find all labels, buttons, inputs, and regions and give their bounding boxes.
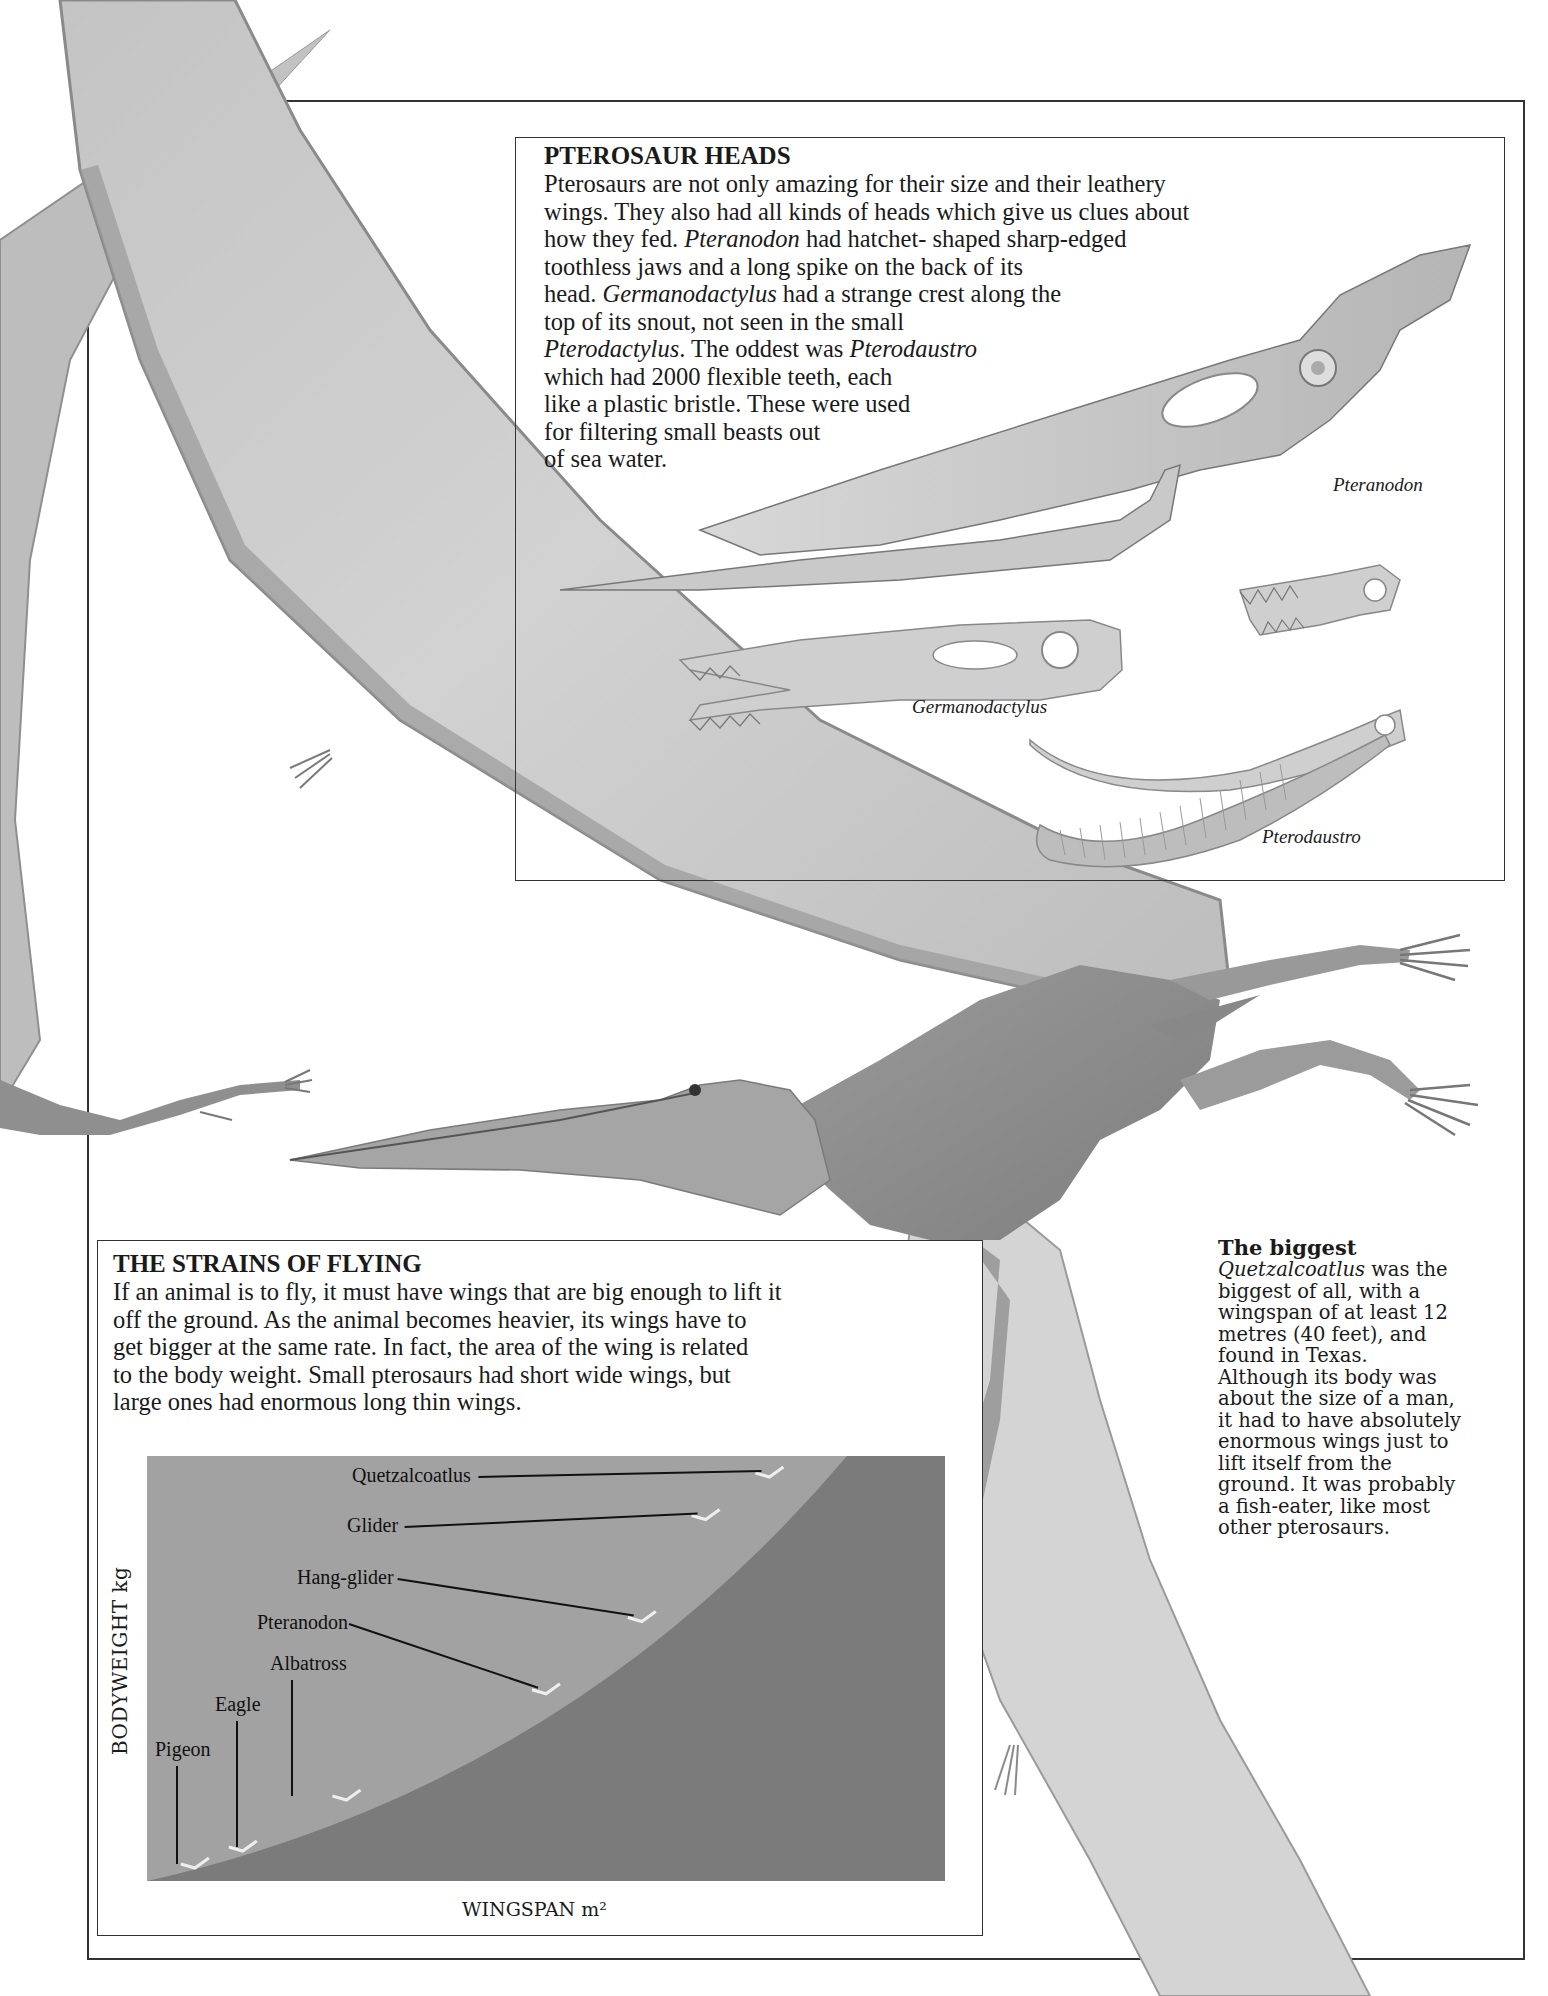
heads-line: like a plastic bristle. These were used xyxy=(544,390,1189,418)
pterosaur-heads-text: PTEROSAUR HEADS Pterosaurs are not only … xyxy=(544,142,1189,473)
wingspan-bodyweight-chart: PigeonEagleAlbatrossPteranodonHang-glide… xyxy=(147,1456,945,1881)
biggest-line: enormous wings just to xyxy=(1218,1431,1508,1453)
chart-label-albatross: Albatross xyxy=(270,1652,347,1675)
chart-label-pteranodon: Pteranodon xyxy=(257,1611,348,1634)
chart-plot-area xyxy=(147,1456,945,1881)
caption-germanodactylus: Germanodactylus xyxy=(912,696,1047,718)
heads-line: which had 2000 flexible teeth, each xyxy=(544,363,1189,391)
x-axis-label-text: WINGSPAN m² xyxy=(462,1898,607,1920)
heads-line: of sea water. xyxy=(544,445,1189,473)
biggest-line: it had to have absolutely xyxy=(1218,1410,1508,1432)
chart-label-quetzalcoatlus: Quetzalcoatlus xyxy=(352,1464,471,1487)
caption-pteranodon: Pteranodon xyxy=(1333,474,1423,496)
the-biggest-section: The biggest Quetzalcoatlus was the bigge… xyxy=(1218,1236,1508,1539)
strains-line: If an animal is to fly, it must have win… xyxy=(113,1278,782,1306)
pterosaur-heads-title: PTEROSAUR HEADS xyxy=(544,142,1189,170)
heads-line: top of its snout, not seen in the small xyxy=(544,308,1189,336)
biggest-line: biggest of all, with a xyxy=(1218,1281,1508,1303)
biggest-line: other pterosaurs. xyxy=(1218,1517,1508,1539)
strains-of-flying-body: If an animal is to fly, it must have win… xyxy=(113,1278,782,1416)
heads-line: how they fed. Pteranodon had hatchet- sh… xyxy=(544,225,1189,253)
y-axis-label: BODYWEIGHT kg xyxy=(108,1567,132,1755)
chart-label-pigeon: Pigeon xyxy=(155,1738,211,1761)
strains-line: off the ground. As the animal becomes he… xyxy=(113,1306,782,1334)
strains-of-flying-title: THE STRAINS OF FLYING xyxy=(113,1250,782,1278)
chart-label-hang-glider: Hang-glider xyxy=(297,1566,394,1589)
biggest-line: Quetzalcoatlus was the xyxy=(1218,1259,1508,1281)
biggest-line: metres (40 feet), and xyxy=(1218,1324,1508,1346)
caption-pterodaustro: Pterodaustro xyxy=(1262,826,1361,848)
the-biggest-title: The biggest xyxy=(1218,1236,1508,1259)
biggest-line: found in Texas. xyxy=(1218,1345,1508,1367)
chart-label-glider: Glider xyxy=(347,1514,398,1537)
heads-line: Pterodactylus. The oddest was Pterodaust… xyxy=(544,335,1189,363)
the-biggest-body: Quetzalcoatlus was the biggest of all, w… xyxy=(1218,1259,1508,1539)
pterosaur-heads-body: Pterosaurs are not only amazing for thei… xyxy=(544,170,1189,473)
strains-line: to the body weight. Small pterosaurs had… xyxy=(113,1361,782,1389)
biggest-line: about the size of a man, xyxy=(1218,1388,1508,1410)
biggest-line: lift itself from the xyxy=(1218,1453,1508,1475)
heads-line: head. Germanodactylus had a strange cres… xyxy=(544,280,1189,308)
heads-line: Pterosaurs are not only amazing for thei… xyxy=(544,170,1189,198)
biggest-line: a fish-eater, like most xyxy=(1218,1496,1508,1518)
pterosaur-body xyxy=(790,965,1220,1240)
x-axis-label: WINGSPAN m² xyxy=(462,1898,607,1920)
strains-line: get bigger at the same rate. In fact, th… xyxy=(113,1333,782,1361)
heads-line: wings. They also had all kinds of heads … xyxy=(544,198,1189,226)
biggest-line: ground. It was probably xyxy=(1218,1474,1508,1496)
biggest-line: wingspan of at least 12 xyxy=(1218,1302,1508,1324)
heads-line: toothless jaws and a long spike on the b… xyxy=(544,253,1189,281)
strains-of-flying-text: THE STRAINS OF FLYING If an animal is to… xyxy=(113,1250,782,1416)
heads-line: for filtering small beasts out xyxy=(544,418,1189,446)
strains-line: large ones had enormous long thin wings. xyxy=(113,1388,782,1416)
biggest-line: Although its body was xyxy=(1218,1367,1508,1389)
chart-label-eagle: Eagle xyxy=(215,1693,261,1716)
